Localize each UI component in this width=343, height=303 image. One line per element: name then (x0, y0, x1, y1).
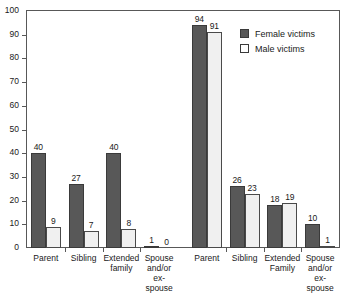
y-tick-label: 40 (0, 148, 19, 157)
bar-female-victims[interactable] (31, 153, 46, 248)
bar-group: 277 (65, 11, 103, 248)
bar-value-label: 10 (301, 214, 324, 223)
y-tick-label: 20 (0, 196, 19, 205)
x-axis-label-line: and/or (136, 263, 182, 273)
x-axis-label-line: and/or (297, 263, 343, 273)
y-tick-label: 100 (0, 6, 19, 15)
x-tick-mark (140, 248, 141, 252)
x-axis-label-line: Spouse (297, 253, 343, 263)
bar-value-label: 1 (316, 236, 339, 245)
y-tick-mark (22, 201, 26, 202)
y-tick-mark (22, 130, 26, 131)
bar-value-label: 23 (241, 184, 264, 193)
y-tick-label: 30 (0, 172, 19, 181)
y-tick-mark (22, 35, 26, 36)
x-axis-label-line: spouse (136, 283, 182, 293)
y-tick-mark (22, 224, 26, 225)
bar-group: 409 (27, 11, 65, 248)
x-axis-label-line: spouse (297, 283, 343, 293)
y-tick-mark (22, 82, 26, 83)
bar-female-victims[interactable] (192, 25, 207, 248)
bar-value-label: 27 (65, 174, 88, 183)
bar-male-victims[interactable] (121, 229, 136, 248)
y-tick-label: 90 (0, 30, 19, 39)
legend-label: Female victims (255, 29, 315, 39)
bar-value-label: 40 (27, 143, 50, 152)
legend-swatch-icon (240, 29, 249, 38)
x-axis-label-line: Spouse (136, 253, 182, 263)
bar-female-victims[interactable] (69, 184, 84, 248)
y-tick-mark (22, 106, 26, 107)
bar-value-label: 19 (278, 193, 301, 202)
y-tick-label: 70 (0, 77, 19, 86)
bar-male-victims[interactable] (207, 32, 222, 248)
bar-value-label: 40 (102, 143, 125, 152)
bar-value-label: 8 (117, 219, 140, 228)
bar-group: 408 (103, 11, 141, 248)
x-tick-mark (65, 248, 66, 252)
bar-female-victims[interactable] (106, 153, 121, 248)
bar-male-victims[interactable] (282, 203, 297, 248)
y-tick-label: 50 (0, 125, 19, 134)
bar-male-victims[interactable] (84, 231, 99, 248)
legend: Female victimsMale victims (240, 26, 315, 56)
legend-item-male[interactable]: Male victims (240, 41, 315, 56)
x-axis-label-line: ex- (297, 273, 343, 283)
bar-female-victims[interactable] (267, 205, 282, 248)
x-axis-label-line: ex- (136, 273, 182, 283)
x-tick-mark (301, 248, 302, 252)
y-tick-mark (22, 177, 26, 178)
legend-item-female[interactable]: Female victims (240, 26, 315, 41)
bar-value-label: 7 (80, 221, 103, 230)
bar-value-label: 9 (42, 217, 65, 226)
bar-group: 10 (140, 11, 178, 248)
bar-female-victims[interactable] (230, 186, 245, 248)
y-tick-mark (22, 58, 26, 59)
bar-male-victims[interactable] (245, 194, 260, 249)
y-tick-label: 80 (0, 53, 19, 62)
bar-chart: 0102030405060708090100 40927740810949126… (0, 0, 343, 303)
y-tick-label: 0 (0, 243, 19, 252)
x-tick-mark (226, 248, 227, 252)
x-axis-label: Spouseand/orex-spouse (136, 253, 182, 293)
x-axis-label: Spouseand/orex-spouse (297, 253, 343, 293)
bar-value-label: 91 (203, 22, 226, 31)
legend-swatch-icon (240, 44, 249, 53)
bar-male-victims[interactable] (46, 227, 61, 248)
y-tick-label: 10 (0, 219, 19, 228)
x-tick-mark (264, 248, 265, 252)
y-tick-mark (22, 153, 26, 154)
y-tick-label: 60 (0, 101, 19, 110)
x-tick-mark (103, 248, 104, 252)
legend-label: Male victims (255, 44, 305, 54)
x-axis-labels: ParentSiblingExtendedfamilySpouseand/ore… (27, 253, 339, 303)
bar-value-label: 0 (155, 238, 178, 247)
bar-group: 9491 (188, 11, 226, 248)
